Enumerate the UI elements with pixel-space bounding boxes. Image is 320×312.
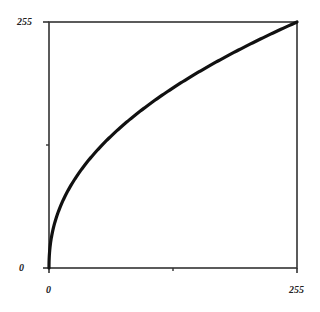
x-axis-min-label: 0 bbox=[46, 285, 51, 295]
y-axis-max-label: 255 bbox=[17, 17, 32, 27]
plot-area bbox=[0, 0, 320, 312]
y-axis-min-label: 0 bbox=[19, 263, 24, 273]
gamma-chart: 255 0 0 255 bbox=[0, 0, 320, 312]
x-axis-max-label: 255 bbox=[289, 285, 304, 295]
plot-frame bbox=[49, 22, 297, 268]
gamma-curve-line bbox=[49, 22, 297, 268]
